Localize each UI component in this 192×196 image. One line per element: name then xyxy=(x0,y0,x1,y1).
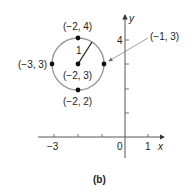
circle-graph: −3 0 1 4 x y 1 (−2, 4) (−3, 3) (−2, 3) (… xyxy=(0,0,192,196)
point-label-top: (−2, 4) xyxy=(63,21,92,32)
point-label-right: (−1, 3) xyxy=(150,31,179,42)
point-left xyxy=(50,62,55,67)
point-label-center: (−2, 3) xyxy=(63,70,92,81)
point-top xyxy=(76,36,81,41)
y-tick-label-4: 4 xyxy=(117,35,123,46)
point-label-bottom: (−2, 2) xyxy=(63,96,92,107)
x-tick-label-0: 0 xyxy=(117,141,123,152)
point-bottom xyxy=(76,88,81,93)
point-label-left: (−3, 3) xyxy=(18,59,47,70)
x-tick-label-neg3: −3 xyxy=(47,141,59,152)
y-axis-label: y xyxy=(128,13,135,24)
radius-label: 1 xyxy=(76,45,82,56)
x-axis-label: x xyxy=(157,141,164,152)
x-tick-label-1: 1 xyxy=(145,141,151,152)
leader-arrow xyxy=(109,38,148,61)
figure-caption: (b) xyxy=(93,174,106,185)
point-center xyxy=(76,62,81,67)
point-right xyxy=(102,62,107,67)
